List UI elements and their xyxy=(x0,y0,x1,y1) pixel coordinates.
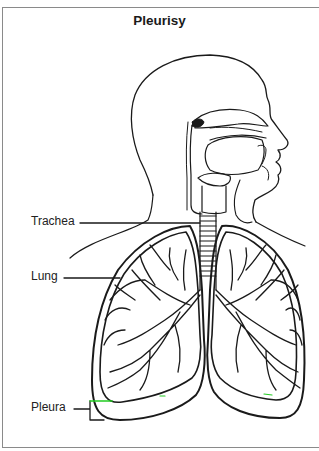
right-shoulder xyxy=(256,222,305,246)
left-bronchial-tree xyxy=(104,245,200,390)
right-bronchial-tree xyxy=(216,245,302,390)
respiratory-anatomy-illustration xyxy=(0,0,319,451)
left-shoulder xyxy=(70,195,153,258)
head-outline xyxy=(131,55,287,222)
pharynx xyxy=(190,125,202,214)
left-lung xyxy=(100,232,201,402)
nasal-cavity xyxy=(195,109,268,128)
right-lung xyxy=(211,232,296,400)
oral-cavity xyxy=(205,137,264,175)
right-pleura-outer xyxy=(207,226,304,418)
pleura-bracket xyxy=(74,401,104,420)
left-pleura-outer xyxy=(92,226,205,420)
larynx xyxy=(198,173,230,186)
ear-marker xyxy=(192,119,204,127)
